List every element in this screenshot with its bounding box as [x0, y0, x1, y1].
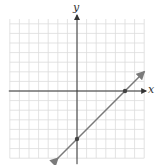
data-point [123, 89, 127, 93]
y-axis-label: y [73, 2, 79, 13]
x-axis-label: x [148, 84, 154, 95]
series-line [58, 72, 144, 158]
data-point [75, 137, 79, 141]
coordinate-graph [0, 0, 158, 165]
plot-line [58, 72, 144, 158]
